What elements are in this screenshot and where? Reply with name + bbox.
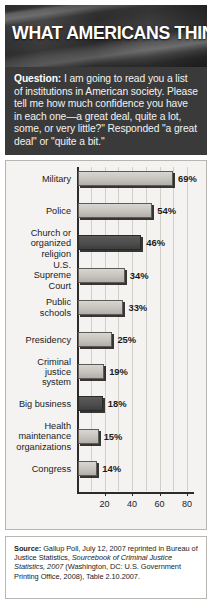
category-label: Public schools [40,297,71,318]
question-body: I am going to read you a list of institu… [14,73,198,147]
bar [78,268,125,283]
bar-value-label: 54% [157,205,176,216]
source-text: Source: Gallup Poll, July 12, 2007 repri… [14,544,198,581]
gridline [187,167,188,491]
bar [78,235,141,250]
bar [78,171,173,186]
x-axis-tick [160,492,161,496]
x-axis-tick [105,492,106,496]
category-label: Church or organized religion [31,228,71,259]
category-label: Congress [32,464,71,474]
category-label: Police [46,206,71,216]
bar [78,203,152,218]
x-axis-line [77,492,194,494]
x-axis-tick [132,492,133,496]
bar-value-label: 15% [104,431,123,442]
category-label: Health maintenance organizations [16,421,71,452]
source-box: Source: Gallup Poll, July 12, 2007 repri… [5,536,207,599]
bar-value-label: 34% [130,270,149,281]
category-label: U.S. Supreme Court [34,260,71,291]
x-axis-tick-label: 80 [182,499,192,509]
what-americans-think-figure: WHAT AMERICANS THINK Question: I am goin… [0,0,212,604]
category-label: Criminal justice system [37,357,71,388]
bar-value-label: 14% [102,463,121,474]
bar [78,429,99,444]
bar-value-label: 69% [178,173,197,184]
bar-value-label: 46% [146,237,165,248]
category-label: Military [42,174,71,184]
header-banner: WHAT AMERICANS THINK [5,5,207,67]
bar-chart-panel: Military69%Police54%Church or organized … [5,160,207,530]
x-axis-tick [187,492,188,496]
source-label: Source: [14,544,41,553]
question-text: Question: I am going to read you a list … [14,73,198,149]
bar-value-label: 25% [117,334,136,345]
page-title: WHAT AMERICANS THINK [12,22,200,44]
question-block: Question: I am going to read you a list … [5,67,207,155]
x-axis-tick-label: 60 [155,499,165,509]
bar-value-label: 19% [109,366,128,377]
bar-value-label: 33% [128,302,147,313]
category-label: Presidency [26,335,71,345]
plot-area: Military69%Police54%Church or organized … [6,161,206,529]
bar [78,396,103,411]
bar [78,332,112,347]
bar [78,300,123,315]
x-axis-tick-label: 20 [100,499,110,509]
x-axis-tick-label: 40 [127,499,137,509]
bar [78,364,104,379]
question-label: Question: [14,73,61,84]
bar-value-label: 18% [108,398,127,409]
bar [78,461,97,476]
category-label: Big business [19,399,71,409]
